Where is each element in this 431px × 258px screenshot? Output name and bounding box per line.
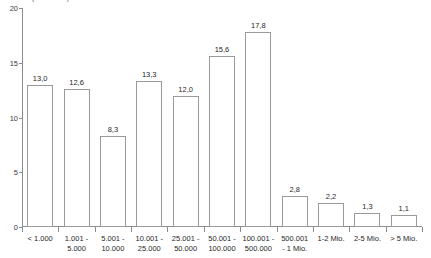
category-tick-mark [422, 227, 423, 232]
bar-value-label: 13,3 [142, 70, 157, 79]
x-axis-tick-label-line: 500.001 [281, 234, 308, 244]
x-axis-tick-label-line: 100.000 [208, 244, 236, 254]
category-tick-mark [204, 227, 205, 232]
category-tick-mark [95, 227, 96, 232]
bar-chart: in 1.000 (in Prozent) 05101520 13,012,68… [0, 0, 431, 258]
category-tick-mark [58, 227, 59, 232]
category-tick-mark [313, 227, 314, 232]
x-axis-tick-label-line: 5.001 - [101, 234, 124, 244]
bar[interactable] [64, 89, 90, 227]
x-axis-tick-label-line: 25.000 [136, 244, 164, 254]
bar-group: 15,6 [204, 8, 240, 227]
bar-value-label: 12,6 [69, 78, 84, 87]
bar[interactable] [245, 32, 271, 227]
bar-value-label: 17,8 [251, 21, 266, 30]
bar-group: 12,0 [167, 8, 203, 227]
x-axis-tick-label: 1-2 Mio. [318, 234, 345, 244]
bar-group: 12,6 [58, 8, 94, 227]
bar-group: 2,8 [277, 8, 313, 227]
bar[interactable] [27, 85, 53, 227]
bar-value-label: 1,1 [399, 204, 409, 213]
bar[interactable] [173, 96, 199, 227]
x-axis-tick-label-line: 2-5 Mio. [354, 234, 381, 244]
bar[interactable] [136, 81, 162, 227]
y-axis-tick-label: 10 [2, 113, 18, 122]
x-axis-tick-label-line: 10.001 - [136, 234, 164, 244]
bar-group: 1,3 [349, 8, 385, 227]
bar-value-label: 13,0 [33, 74, 48, 83]
bar[interactable] [391, 215, 417, 227]
x-axis-tick-label-line: < 1.000 [28, 234, 53, 244]
x-axis-tick-label: 5.001 -10.000 [101, 234, 124, 253]
bar-value-label: 1,3 [362, 202, 372, 211]
x-axis-tick-label: > 5 Mio. [390, 234, 417, 244]
x-axis-tick-label-line: 1-2 Mio. [318, 234, 345, 244]
bar-series: 13,012,68,313,312,015,617,82,82,21,31,1 [22, 8, 422, 227]
x-axis-tick-label: 500.001- 1 Mio. [281, 234, 308, 253]
x-axis-tick-label: 100.001 -500.000 [243, 234, 275, 253]
x-axis-tick-label: 10.001 -25.000 [136, 234, 164, 253]
x-axis-tick-label-line: 10.000 [101, 244, 124, 254]
bar[interactable] [209, 56, 235, 227]
category-tick-mark [240, 227, 241, 232]
x-axis-tick-label-line: - 1 Mio. [281, 244, 308, 254]
category-tick-mark [167, 227, 168, 232]
y-axis-tick-label: 20 [2, 4, 18, 13]
category-tick-mark [22, 227, 23, 232]
bar-group: 8,3 [95, 8, 131, 227]
bar[interactable] [100, 136, 126, 227]
x-axis-tick-label-line: 50.001 - [208, 234, 236, 244]
category-tick-mark [131, 227, 132, 232]
x-axis-tick-label: < 1.000 [28, 234, 53, 244]
bar[interactable] [354, 213, 380, 227]
x-axis-tick-label: 2-5 Mio. [354, 234, 381, 244]
plot-area: 05101520 13,012,68,313,312,015,617,82,82… [22, 8, 422, 227]
category-tick-marks [22, 227, 423, 232]
bar-value-label: 12,0 [178, 85, 193, 94]
x-axis-tick-label-line: 25.001 - [172, 234, 200, 244]
category-tick-mark [349, 227, 350, 232]
bar-group: 13,0 [22, 8, 58, 227]
x-axis-tick-label-line: 1.001 - [65, 234, 88, 244]
bar[interactable] [282, 196, 308, 227]
x-axis-tick-label: 25.001 -50.000 [172, 234, 200, 253]
x-axis-tick-label-line: > 5 Mio. [390, 234, 417, 244]
x-axis-tick-label-line: 100.001 - [243, 234, 275, 244]
y-axis-tick-label: 0 [2, 223, 18, 232]
category-tick-mark [386, 227, 387, 232]
y-axis-tick-label: 5 [2, 168, 18, 177]
x-axis-labels: < 1.0001.001 -5.0005.001 -10.00010.001 -… [22, 234, 422, 258]
x-axis-tick-label-line: 5.000 [65, 244, 88, 254]
bar-group: 13,3 [131, 8, 167, 227]
y-axis-tick-label: 15 [2, 58, 18, 67]
bar-value-label: 8,3 [108, 125, 118, 134]
bar-group: 1,1 [386, 8, 422, 227]
x-axis-tick-label-line: 500.000 [243, 244, 275, 254]
chart-title: in 1.000 (in Prozent) [4, 0, 69, 1]
x-axis-tick-label: 1.001 -5.000 [65, 234, 88, 253]
bar-value-label: 15,6 [215, 45, 230, 54]
bar-group: 17,8 [240, 8, 276, 227]
x-axis-tick-label: 50.001 -100.000 [208, 234, 236, 253]
x-axis-tick-label-line: 50.000 [172, 244, 200, 254]
bar-value-label: 2,8 [289, 185, 299, 194]
bar-value-label: 2,2 [326, 192, 336, 201]
bar-group: 2,2 [313, 8, 349, 227]
bar[interactable] [318, 203, 344, 227]
category-tick-mark [277, 227, 278, 232]
